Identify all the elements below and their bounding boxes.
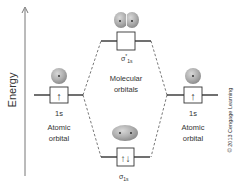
electron-up-icon: ↑ [190,90,196,102]
nucleus-dot [192,75,194,77]
mo-label-line1: Molecular [110,74,143,83]
mo-diagram: Energy ↑ 1s Atomic orbital ↑ 1s Atomic o… [0,0,237,186]
left-atomic-orbital: ↑ 1s Atomic orbital [34,68,83,143]
nucleus-dot [130,132,132,134]
atomic-label-line1: Atomic [182,123,205,132]
nucleus-dot [119,20,121,22]
electron-pair-icon: ↑↓ [121,153,131,164]
mo-label-line2: orbitals [114,85,138,94]
copyright-text: © 2013 Cengage Learning [227,88,233,153]
bonding-orbital: ↑↓ σ1s [101,125,150,182]
nucleus-dot [58,75,60,77]
energy-axis-label: Energy [6,72,18,107]
atomic-label-line2: orbital [49,134,70,143]
sigma-label: σ1s [119,173,129,182]
electron-up-icon: ↑ [56,90,62,102]
sigma-star-label: σ*1s [121,53,133,64]
atomic-label-line2: orbital [183,134,204,143]
orbital-label: 1s [55,109,63,118]
antibonding-orbital: σ*1s [101,12,151,64]
orbital-box [117,32,135,50]
energy-axis: Energy [6,7,28,176]
orbital-label: 1s [189,109,197,118]
nucleus-dot [131,20,133,22]
nucleus-dot [119,132,121,134]
atomic-label-line1: Atomic [48,123,71,132]
right-atomic-orbital: ↑ 1s Atomic orbital [167,68,218,143]
